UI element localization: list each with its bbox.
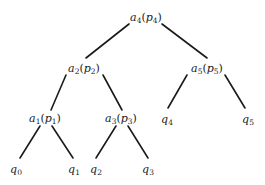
edge-a1-q1 [52, 126, 73, 158]
node-a2: a2(p2) [68, 63, 100, 74]
tree-edges [0, 0, 265, 185]
edge-a1-q0 [20, 126, 40, 158]
edge-a4-a2 [86, 24, 129, 58]
edge-a2-a1 [51, 75, 66, 110]
node-symbol: q [142, 163, 149, 176]
node-paren-symbol: p [146, 11, 153, 24]
node-a4: a4(p4) [130, 12, 162, 23]
node-symbol: q [90, 163, 97, 176]
node-a3: a3(p3) [105, 113, 137, 124]
close-paren: ) [158, 11, 162, 24]
edge-a3-q2 [96, 126, 116, 158]
edge-a3-q3 [128, 126, 148, 158]
node-a1: a1(p1) [29, 113, 61, 124]
node-q2: q2 [90, 164, 102, 175]
close-paren: ) [96, 62, 100, 75]
edge-a2-a3 [103, 75, 122, 110]
node-paren-symbol: p [207, 62, 214, 75]
node-subscript: 5 [249, 118, 254, 127]
close-paren: ) [57, 112, 61, 125]
edge-a4-a5 [162, 24, 207, 58]
close-paren: ) [219, 62, 223, 75]
edge-a5-q4 [168, 75, 187, 108]
node-q5: q5 [242, 114, 254, 125]
node-symbol: q [10, 163, 17, 176]
node-q1: q1 [68, 164, 80, 175]
node-subscript: 2 [97, 168, 102, 177]
node-paren-symbol: p [45, 112, 52, 125]
node-symbol: q [68, 163, 75, 176]
node-subscript: 3 [149, 168, 154, 177]
node-a5: a5(p5) [191, 63, 223, 74]
node-paren-symbol: p [84, 62, 91, 75]
node-paren-symbol: p [121, 112, 128, 125]
node-q3: q3 [142, 164, 154, 175]
tree-diagram: a4(p4)a2(p2)a5(p5)a1(p1)a3(p3)q4q5q0q1q2… [0, 0, 265, 185]
node-q4: q4 [161, 114, 173, 125]
close-paren: ) [133, 112, 137, 125]
node-subscript: 1 [75, 168, 80, 177]
node-subscript: 0 [17, 168, 22, 177]
node-q0: q0 [10, 164, 22, 175]
node-symbol: q [161, 113, 168, 126]
node-symbol: q [242, 113, 249, 126]
node-subscript: 4 [168, 118, 173, 127]
edge-a5-q5 [225, 75, 245, 108]
